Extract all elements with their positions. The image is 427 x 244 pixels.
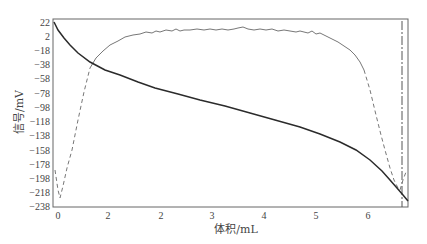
y-axis-title: 信号/mV bbox=[13, 89, 26, 134]
y-tick-label: −178 bbox=[29, 159, 50, 170]
x-tick-label: 3 bbox=[210, 210, 215, 221]
y-tick-label: −158 bbox=[29, 145, 50, 156]
y-tick-label: −198 bbox=[29, 173, 50, 184]
y-tick-label: −38 bbox=[34, 59, 50, 70]
x-axis-title: 体积/mL bbox=[214, 222, 258, 236]
x-tick-label: 5 bbox=[314, 210, 319, 221]
chart: 22 2 −18 −38 −58 −78 −98 −118 −138 −158 … bbox=[0, 0, 427, 244]
y-axis-ticks: 22 2 −18 −38 −58 −78 −98 −118 −138 −158 … bbox=[29, 17, 50, 213]
y-tick-label: 22 bbox=[40, 17, 50, 28]
derivative-curve-right-dashed bbox=[364, 70, 406, 190]
y-tick-label: −118 bbox=[30, 116, 50, 127]
y-tick-label: −98 bbox=[34, 102, 50, 113]
titration-curve bbox=[54, 22, 408, 201]
x-tick-label: 4 bbox=[262, 210, 267, 221]
x-tick-label: 0 bbox=[56, 210, 61, 221]
x-tick-label: 2 bbox=[106, 210, 111, 221]
x-tick-label: 2 bbox=[159, 210, 164, 221]
x-tick-label: 6 bbox=[366, 210, 371, 221]
derivative-curve-plateau bbox=[90, 27, 364, 70]
y-tick-label: −18 bbox=[34, 45, 50, 56]
y-tick-label: −78 bbox=[34, 88, 50, 99]
y-tick-label: −238 bbox=[29, 201, 50, 212]
y-tick-label: −138 bbox=[29, 130, 50, 141]
plot-frame bbox=[53, 19, 408, 207]
y-tick-label: −58 bbox=[34, 73, 50, 84]
x-axis-ticks: 0 2 2 3 4 5 6 bbox=[56, 210, 371, 221]
y-tick-label: −218 bbox=[29, 187, 50, 198]
derivative-curve-left-dashed bbox=[55, 68, 90, 198]
y-tick-label: 2 bbox=[45, 31, 50, 42]
